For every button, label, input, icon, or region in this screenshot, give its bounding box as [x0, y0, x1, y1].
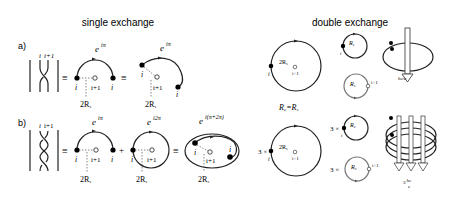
label-i: i: [229, 145, 231, 154]
diagram-a1: e iπ i i+1 i: [74, 42, 115, 98]
panel-a: a) i i+1 ≡ e iπ i i+1 i 2Rs ≡: [18, 41, 182, 109]
flux-denominator: e: [408, 184, 410, 189]
radius-label: 2Rs: [80, 175, 91, 184]
label-i: i: [131, 155, 133, 164]
double-exchange-top: 2Rs i i+1 Rs i Rs i+1 hc/e: [268, 28, 433, 99]
label-i: i: [341, 133, 343, 138]
diagram-b2: e i2π i i+1: [130, 115, 169, 172]
label-i1: i+1: [206, 157, 216, 165]
label-i1: i+1: [91, 156, 101, 164]
equiv-sign: ≡: [173, 145, 179, 156]
label-i: i: [194, 148, 196, 157]
radius-label: 2Rs: [136, 175, 147, 184]
radius-equation: Rc=Rs: [278, 103, 298, 112]
label-i1: i+1: [292, 156, 299, 161]
panel-b-label: b): [18, 118, 26, 128]
flux-label: hc/e: [398, 76, 407, 81]
braid-label-i: i: [39, 52, 41, 60]
label-i: i: [340, 51, 342, 56]
label-i: i: [141, 70, 143, 79]
radius-label: 2Rs: [198, 175, 209, 184]
radius-label: 2Rs: [145, 100, 156, 109]
label-i: i: [111, 83, 113, 92]
braid-double: [30, 130, 58, 171]
label-i: i: [111, 155, 113, 164]
label-i1: i+1: [292, 71, 299, 76]
label-i1: i+1: [371, 80, 378, 85]
label-i: i: [176, 90, 178, 99]
phase-exp: i(π+2π): [205, 114, 224, 121]
big-radius: 2Rs: [279, 144, 288, 151]
phase-exp: i2π: [153, 115, 162, 121]
braid-label-i1: i+1: [44, 122, 54, 130]
phase-exp: iπ: [101, 42, 107, 48]
phase-exp: iπ: [98, 115, 104, 121]
equiv-sign: ≡: [121, 72, 127, 83]
label-i1: i+1: [147, 156, 157, 164]
radius-label: 2Rs: [80, 100, 91, 109]
multiplier: 3 ×: [330, 166, 339, 174]
plus-sign: +: [119, 145, 124, 155]
panel-a-label: a): [18, 41, 26, 51]
big-radius: 2Rs: [279, 59, 288, 66]
diagram-b1: e iπ i i+1 i: [74, 115, 115, 172]
double-exchange-bottom: 3 × 2Rs i i+1 3 × Rc i 3 × Rc i+1 3hc: [258, 115, 436, 189]
phase-e: e: [92, 117, 96, 127]
diagram-a2: e iπ i i+1 i: [139, 41, 182, 99]
label-i: i: [268, 156, 270, 162]
title-single-exchange: single exchange: [82, 17, 155, 28]
phase-e: e: [147, 117, 151, 127]
braid-label-i1: i+1: [44, 52, 54, 60]
small2-radius: Rs: [349, 81, 356, 88]
multiplier: 3 ×: [258, 148, 267, 156]
phase-e: e: [199, 116, 203, 126]
label-i1: i+1: [372, 163, 379, 168]
small1-radius: Rc: [349, 122, 356, 129]
multiplier: 3 ×: [330, 125, 339, 133]
small1-radius: Rs: [348, 40, 355, 47]
figure: single exchange double exchange a) i i+1…: [0, 0, 451, 197]
phase-exp: iπ: [166, 41, 172, 47]
small2-radius: Rc: [350, 164, 357, 171]
title-double-exchange: double exchange: [312, 17, 389, 28]
equiv-sign: ≡: [62, 72, 68, 83]
label-i: i: [75, 83, 77, 92]
label-i: i: [268, 71, 270, 77]
label-i: i: [75, 155, 77, 164]
braid-single: [30, 60, 58, 92]
phase-e: e: [160, 43, 164, 53]
diagram-b3: e i(π+2π) i i+1 i: [185, 114, 239, 172]
equiv-sign: ≡: [62, 145, 68, 156]
label-i1: i+1: [153, 84, 163, 92]
panel-b: b) i i+1 ≡ e iπ i i+1 i 2Rs +: [18, 114, 239, 184]
solenoid-triple: [386, 116, 436, 171]
label-i1: i+1: [91, 84, 101, 92]
phase-e: e: [95, 44, 99, 54]
braid-label-i: i: [39, 122, 41, 130]
